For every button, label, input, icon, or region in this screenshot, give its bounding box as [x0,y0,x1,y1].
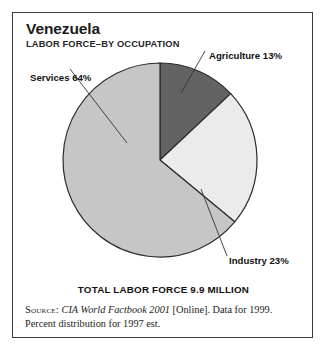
pie-label-services: Services 64% [30,73,91,83]
pie-label-agriculture: Agriculture 13% [209,51,282,61]
source-work-title: CIA World Factbook 2001 [62,304,170,315]
total-labor-force-caption: TOTAL LABOR FORCE 9.9 MILLION [13,285,314,295]
pie-label-industry: Industry 23% [229,256,289,266]
source-keyword: Source: [25,304,59,315]
figure-panel: Venezuela LABOR FORCE–BY OCCUPATION Serv… [12,12,313,338]
source-note: Source: CIA World Factbook 2001 [Online]… [25,303,303,331]
